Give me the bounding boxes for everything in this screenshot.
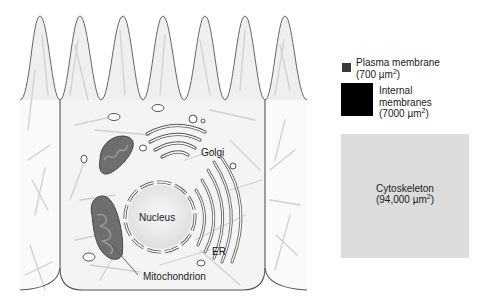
internal-membranes-label-1: Internal — [379, 85, 432, 97]
plasma-membrane-swatch — [342, 63, 351, 72]
internal-membranes-value: (7000 µm2) — [379, 108, 432, 120]
label-mitochondrion: Mitochondrion — [143, 271, 206, 282]
cytoskeleton-swatch: Cytoskeleton (94,000 µm2) — [341, 134, 469, 258]
internal-membranes-swatch — [341, 83, 373, 116]
label-er: ER — [212, 246, 226, 257]
label-golgi: Golgi — [201, 147, 224, 158]
plasma-membrane-legend: Plasma membrane (700 µm2) — [356, 57, 440, 80]
plasma-membrane-label: Plasma membrane — [356, 57, 440, 69]
internal-membranes-legend: Internal membranes (7000 µm2) — [379, 85, 432, 120]
cytoskeleton-label: Cytoskeleton — [376, 183, 434, 195]
label-nucleus: Nucleus — [139, 212, 175, 223]
cytoskeleton-legend: Cytoskeleton (94,000 µm2) — [376, 183, 434, 206]
cell-diagram — [0, 0, 330, 304]
plasma-membrane-value: (700 µm2) — [356, 69, 440, 81]
cytoskeleton-value: (94,000 µm2) — [376, 194, 434, 206]
